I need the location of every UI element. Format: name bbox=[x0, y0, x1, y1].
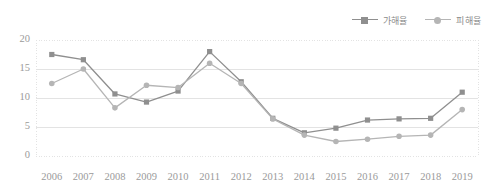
x-axis-tick-label: 2018 bbox=[414, 171, 448, 182]
data-point-marker bbox=[144, 82, 150, 88]
data-point-marker bbox=[428, 132, 434, 138]
x-axis-tick-label: 2016 bbox=[351, 171, 385, 182]
data-point-marker bbox=[49, 81, 55, 87]
x-axis-tick-label: 2017 bbox=[382, 171, 416, 182]
data-point-marker bbox=[365, 136, 371, 142]
series-line-2 bbox=[52, 63, 462, 141]
x-axis-tick-label: 2013 bbox=[256, 171, 290, 182]
data-point-marker bbox=[333, 139, 339, 145]
data-point-marker bbox=[270, 116, 276, 122]
data-point-marker bbox=[460, 90, 465, 95]
x-axis-tick-label: 2007 bbox=[66, 171, 100, 182]
data-point-marker bbox=[365, 117, 370, 122]
data-point-marker bbox=[112, 105, 118, 111]
y-axis-tick-label: 20 bbox=[6, 34, 30, 44]
data-point-marker bbox=[459, 107, 465, 113]
y-axis-tick-label: 0 bbox=[6, 150, 30, 160]
data-point-marker bbox=[396, 116, 401, 121]
x-axis-tick-label: 2015 bbox=[319, 171, 353, 182]
data-point-marker bbox=[396, 133, 402, 139]
data-point-marker bbox=[49, 52, 54, 57]
x-axis-tick-label: 2006 bbox=[35, 171, 69, 182]
y-axis-tick-label: 10 bbox=[6, 92, 30, 102]
x-axis-tick-label: 2014 bbox=[287, 171, 321, 182]
data-point-marker bbox=[333, 126, 338, 131]
data-point-marker bbox=[81, 57, 86, 62]
x-axis-tick-label: 2012 bbox=[224, 171, 258, 182]
x-axis-tick-label: 2019 bbox=[445, 171, 479, 182]
x-axis-tick-label: 2010 bbox=[161, 171, 195, 182]
y-axis-tick-label: 5 bbox=[6, 121, 30, 131]
data-point-marker bbox=[207, 49, 212, 54]
data-point-marker bbox=[175, 85, 181, 91]
data-point-marker bbox=[81, 66, 87, 72]
data-point-marker bbox=[207, 60, 213, 66]
y-axis-tick-label: 15 bbox=[6, 63, 30, 73]
line-chart: 가해율 피해율 05101520200620072008200920102011… bbox=[0, 0, 489, 193]
x-axis-tick-label: 2009 bbox=[130, 171, 164, 182]
data-point-marker bbox=[112, 91, 117, 96]
plot-area bbox=[0, 0, 489, 193]
x-axis-tick-label: 2008 bbox=[98, 171, 132, 182]
x-axis-tick-label: 2011 bbox=[193, 171, 227, 182]
data-point-marker bbox=[428, 116, 433, 121]
data-point-marker bbox=[144, 99, 149, 104]
data-point-marker bbox=[302, 132, 308, 138]
data-point-marker bbox=[238, 81, 244, 87]
